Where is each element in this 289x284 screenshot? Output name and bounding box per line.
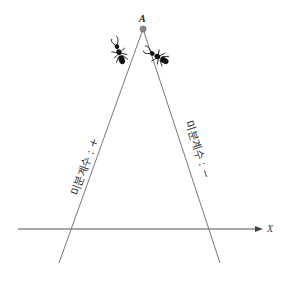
ant-left-icon bbox=[107, 35, 130, 67]
x-axis: X bbox=[18, 223, 274, 234]
arrow-right-icon bbox=[255, 226, 263, 232]
point-a-label: A bbox=[138, 13, 146, 24]
left-slope-label: 미분계수 : + bbox=[69, 136, 102, 197]
right-slope-line bbox=[143, 29, 220, 263]
ant-right-icon bbox=[140, 42, 172, 68]
right-slope-label: 미분계수 : − bbox=[182, 119, 213, 180]
point-a bbox=[140, 26, 146, 32]
x-axis-label: X bbox=[266, 223, 274, 234]
left-slope-line bbox=[59, 29, 143, 263]
slope-diagram: X A 미분계수 : + 미분계수 : − bbox=[0, 0, 289, 284]
